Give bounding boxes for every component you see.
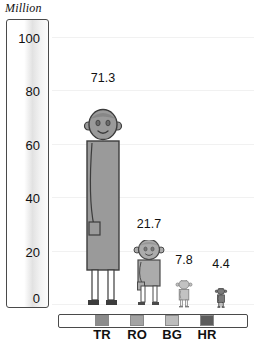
legend-label-hr: HR	[187, 328, 227, 342]
person-pictogram-tr	[79, 108, 127, 308]
person-pictogram-bg	[175, 280, 193, 308]
value-label-hr: 4.4	[212, 258, 229, 271]
y-axis-tick-40: 40	[26, 192, 40, 205]
person-pictogram-hr	[215, 288, 228, 308]
legend-item-hr[interactable]: HR	[187, 314, 227, 342]
legend-swatch-hr	[200, 315, 214, 326]
value-label-tr: 71.3	[91, 72, 115, 85]
legend-label-tr: TR	[82, 328, 122, 342]
y-axis-tick-80: 80	[26, 85, 40, 98]
y-axis-tick-60: 60	[26, 139, 40, 152]
legend-swatch-bg	[165, 315, 179, 326]
legend-swatch-ro	[130, 315, 144, 326]
legend-label-ro: RO	[117, 328, 157, 342]
legend-label-bg: BG	[152, 328, 192, 342]
gridline-100	[52, 37, 254, 38]
pictogram-chart: Million 100 80 60 40 20 0 71.3	[0, 0, 254, 344]
legend-item-tr[interactable]: TR	[82, 314, 122, 342]
plot-area: 71.3	[52, 19, 254, 308]
legend-item-ro[interactable]: RO	[117, 314, 157, 342]
y-axis-tick-100: 100	[18, 32, 40, 45]
y-axis-unit-caption: Million	[5, 1, 42, 16]
value-label-ro: 21.7	[137, 218, 161, 231]
legend-swatch-tr	[95, 315, 109, 326]
y-axis-tick-20: 20	[26, 246, 40, 259]
value-label-bg: 7.8	[175, 254, 192, 267]
legend-item-bg[interactable]: BG	[152, 314, 192, 342]
figure-group-hr: 4.4	[199, 266, 243, 308]
y-axis-tick-0: 0	[33, 292, 40, 305]
y-axis-column: 100 80 60 40 20 0	[6, 19, 49, 308]
